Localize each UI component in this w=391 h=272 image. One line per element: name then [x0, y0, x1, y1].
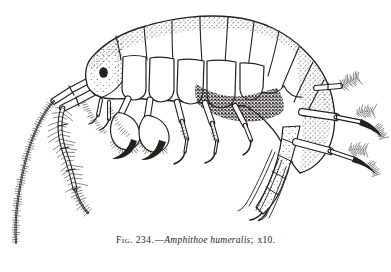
- coxal-plate: [149, 57, 174, 102]
- caption-label: Fig. 234.: [116, 235, 155, 245]
- scanned-book-figure: Fig. 234.—Amphithoe humeralis;x10.: [0, 0, 391, 272]
- pereopod5-claw: [243, 140, 251, 155]
- pereopod7-seg: [330, 151, 354, 159]
- coxal-plate: [122, 56, 146, 101]
- caption-species: Amphithoe humeralis: [164, 235, 250, 245]
- antenna1-flagellum: [15, 101, 54, 243]
- amphipod-illustration: [0, 0, 391, 272]
- caption-magnification: x10.: [257, 235, 275, 245]
- pereopod3: [177, 102, 182, 121]
- antennae: [12, 80, 94, 243]
- antenna1-flagellum: [15, 101, 54, 243]
- caption-dash: —: [154, 235, 164, 245]
- caption-semicolon: ;: [251, 235, 254, 245]
- pereopod3-claw: [174, 152, 185, 164]
- pereopod4-claw: [205, 153, 215, 163]
- eye: [99, 67, 108, 77]
- pereopod7-claw: [352, 156, 376, 174]
- figure-caption: Fig. 234.—Amphithoe humeralis;x10.: [0, 235, 391, 245]
- figure-234: Fig. 234.—Amphithoe humeralis;x10.: [0, 0, 391, 272]
